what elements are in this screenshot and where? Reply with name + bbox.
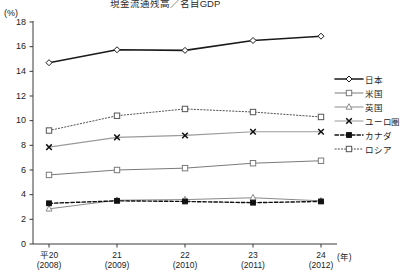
series-0 — [46, 33, 324, 66]
x-tick-label-1: 21(2009) — [89, 250, 145, 270]
y-tick-label-0: 0 — [6, 240, 26, 249]
legend-line-sample-icon — [334, 115, 364, 127]
legend-line-sample-icon — [334, 87, 364, 99]
series-1 — [46, 158, 323, 178]
legend-item-4[interactable]: カナダ — [334, 128, 412, 142]
legend-item-2[interactable]: 英国 — [334, 100, 412, 114]
chart-legend: 日本米国英国ユーロ圏カナダロシア — [334, 72, 412, 156]
y-tick-label-12: 12 — [6, 92, 26, 101]
y-tick-label-16: 16 — [6, 42, 26, 51]
y-tick-label-10: 10 — [6, 116, 26, 125]
legend-item-0[interactable]: 日本 — [334, 72, 412, 86]
x-tick-year: (2008) — [21, 260, 77, 270]
x-tick-label-3: 23(2011) — [225, 250, 281, 270]
legend-label: 日本 — [365, 73, 383, 85]
x-tick-era: 23 — [225, 250, 281, 260]
legend-line-sample-icon — [334, 143, 364, 155]
legend-label: ロシア — [365, 143, 391, 155]
y-tick-label-2: 2 — [6, 215, 26, 224]
series-5 — [46, 106, 323, 133]
x-tick-year: (2011) — [225, 260, 281, 270]
chart-title: 現金流通残高／名目GDP — [0, 0, 330, 10]
legend-item-1[interactable]: 米国 — [334, 86, 412, 100]
series-3 — [46, 129, 324, 150]
x-tick-label-0: 平20(2008) — [21, 250, 77, 270]
legend-line-sample-icon — [334, 73, 364, 85]
y-tick-label-8: 8 — [6, 141, 26, 150]
x-tick-label-2: 22(2010) — [157, 250, 213, 270]
y-tick-label-14: 14 — [6, 67, 26, 76]
legend-item-3[interactable]: ユーロ圏 — [334, 114, 412, 128]
x-tick-era: 21 — [89, 250, 145, 260]
chart-container: 現金流通残高／名目GDP (%) 024681012141618 平20(200… — [0, 0, 412, 277]
legend-line-sample-icon — [334, 101, 364, 113]
y-tick-label-6: 6 — [6, 166, 26, 175]
y-tick-label-4: 4 — [6, 190, 26, 199]
x-tick-year: (2009) — [89, 260, 145, 270]
legend-label: カナダ — [365, 129, 391, 141]
legend-line-sample-icon — [334, 129, 364, 141]
y-tick-label-18: 18 — [6, 18, 26, 27]
x-tick-era: 22 — [157, 250, 213, 260]
x-tick-era: 平20 — [21, 250, 77, 260]
x-tick-year: (2010) — [157, 260, 213, 270]
legend-label: ユーロ圏 — [365, 115, 400, 127]
legend-label: 英国 — [365, 101, 383, 113]
legend-item-5[interactable]: ロシア — [334, 142, 412, 156]
x-axis-unit-label: (年) — [337, 250, 352, 262]
legend-label: 米国 — [365, 87, 383, 99]
